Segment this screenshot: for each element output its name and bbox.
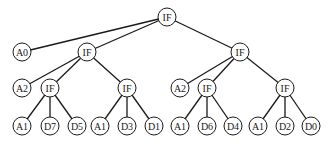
node-label: A0 bbox=[16, 47, 28, 58]
tree-node-a1: A1 bbox=[249, 117, 267, 135]
node-label: IF bbox=[281, 83, 290, 94]
node-label: A2 bbox=[174, 83, 186, 94]
node-label: D0 bbox=[305, 121, 317, 132]
node-label: D5 bbox=[71, 121, 83, 132]
tree-node-if: IF bbox=[41, 79, 59, 97]
tree-node-a1: A1 bbox=[13, 117, 31, 135]
node-label: D6 bbox=[201, 121, 213, 132]
node-label: A1 bbox=[94, 121, 106, 132]
tree-node-if: IF bbox=[231, 43, 249, 61]
node-label: D2 bbox=[279, 121, 291, 132]
tree-node-d2: D2 bbox=[276, 117, 294, 135]
node-label: IF bbox=[163, 12, 172, 23]
tree-diagram: IFA0IFIFA2IFIFA2IFIFA1D7D5A1D3D1A1D6D4A1… bbox=[0, 0, 334, 144]
tree-node-d5: D5 bbox=[68, 117, 86, 135]
tree-node-d6: D6 bbox=[198, 117, 216, 135]
node-label: D7 bbox=[44, 121, 56, 132]
node-label: D4 bbox=[227, 121, 239, 132]
node-label: IF bbox=[83, 47, 92, 58]
tree-edge bbox=[87, 17, 167, 52]
tree-node-a2: A2 bbox=[13, 79, 31, 97]
node-label: A1 bbox=[252, 121, 264, 132]
tree-svg: IFA0IFIFA2IFIFA2IFIFA1D7D5A1D3D1A1D6D4A1… bbox=[0, 0, 334, 144]
node-label: A1 bbox=[16, 121, 28, 132]
node-label: A1 bbox=[174, 121, 186, 132]
tree-node-d4: D4 bbox=[224, 117, 242, 135]
tree-node-if: IF bbox=[78, 43, 96, 61]
node-label: IF bbox=[46, 83, 55, 94]
tree-node-d0: D0 bbox=[302, 117, 320, 135]
nodes-layer: IFA0IFIFA2IFIFA2IFIFA1D7D5A1D3D1A1D6D4A1… bbox=[13, 8, 320, 135]
tree-node-if: IF bbox=[118, 79, 136, 97]
tree-node-a2: A2 bbox=[171, 79, 189, 97]
node-label: IF bbox=[203, 83, 212, 94]
tree-node-if: IF bbox=[276, 79, 294, 97]
tree-node-a0: A0 bbox=[13, 43, 31, 61]
tree-node-a1: A1 bbox=[91, 117, 109, 135]
node-label: D3 bbox=[121, 121, 133, 132]
node-label: A2 bbox=[16, 83, 28, 94]
tree-node-d3: D3 bbox=[118, 117, 136, 135]
node-label: IF bbox=[236, 47, 245, 58]
tree-edge bbox=[167, 17, 240, 52]
edges-layer bbox=[22, 17, 311, 126]
tree-node-if: IF bbox=[158, 8, 176, 26]
node-label: IF bbox=[123, 83, 132, 94]
tree-node-d7: D7 bbox=[41, 117, 59, 135]
tree-node-d1: D1 bbox=[145, 117, 163, 135]
tree-node-if: IF bbox=[198, 79, 216, 97]
tree-node-a1: A1 bbox=[171, 117, 189, 135]
node-label: D1 bbox=[148, 121, 160, 132]
